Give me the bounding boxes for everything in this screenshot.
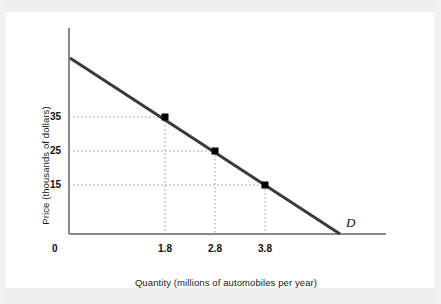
demand-curve-label: D	[346, 215, 355, 231]
figure-frame-bottom	[0, 288, 441, 304]
y-tick-label-15: 15	[39, 179, 61, 190]
y-axis-title: Price (thousands of dollars)	[40, 81, 51, 251]
x-tick-label-1-8: 1.8	[148, 243, 182, 254]
y-tick-label-25: 25	[39, 145, 61, 156]
data-point-marker	[212, 148, 219, 155]
x-axis-title: Quantity (millions of automobiles per ye…	[66, 277, 386, 288]
x-tick-label-2-8: 2.8	[198, 243, 232, 254]
demand-curve-line	[70, 58, 340, 234]
figure-frame-right	[434, 0, 441, 304]
y-tick-label-35: 35	[39, 111, 61, 122]
figure-frame-top	[0, 0, 441, 12]
plot-area: Price (thousands of dollars) Quantity (m…	[6, 12, 434, 288]
origin-label: 0	[52, 243, 58, 254]
demand-curve-figure: Price (thousands of dollars) Quantity (m…	[0, 0, 441, 304]
x-tick-label-3-8: 3.8	[248, 243, 282, 254]
data-point-marker	[162, 114, 169, 121]
data-point-marker	[262, 182, 269, 189]
